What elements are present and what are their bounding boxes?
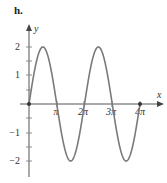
panel-label: h. xyxy=(14,4,23,16)
y-tick-label: −2 xyxy=(9,155,20,166)
x-axis-label: x xyxy=(156,89,162,100)
x-tick-label: 4π xyxy=(135,106,146,117)
y-tick-label: 1 xyxy=(15,69,20,80)
chart: h. x y 2 1 −1 −2 π 2π 3π 4π xyxy=(0,0,167,183)
y-axis-arrow-icon xyxy=(26,24,32,31)
x-tick-label: 3π xyxy=(105,106,117,117)
y-tick-label: 2 xyxy=(15,41,20,52)
y-axis-label: y xyxy=(33,23,39,34)
end-point xyxy=(138,102,142,106)
y-tick-label: −1 xyxy=(9,127,20,138)
origin-point xyxy=(27,102,31,106)
x-axis-arrow-icon xyxy=(157,101,164,107)
